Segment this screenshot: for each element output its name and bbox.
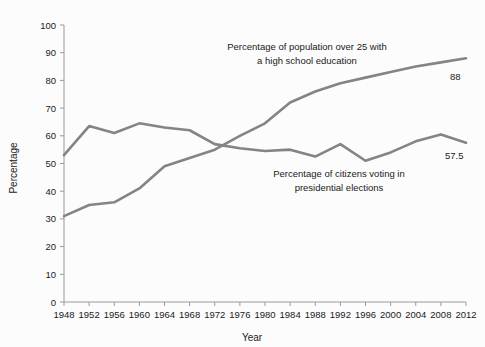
- x-tick-label: 1980: [254, 309, 275, 320]
- x-axis-title: Year: [242, 332, 263, 343]
- x-tick-label: 1984: [280, 309, 301, 320]
- x-tick-label: 2000: [380, 309, 401, 320]
- y-tick-label: 60: [45, 130, 56, 141]
- y-tick-label: 90: [45, 47, 56, 58]
- x-tick-label: 2008: [430, 309, 451, 320]
- x-tick-label: 1952: [79, 309, 100, 320]
- y-axis-ticks: 0102030405060708090100: [40, 20, 64, 308]
- x-tick-label: 1948: [53, 309, 74, 320]
- y-tick-label: 50: [45, 158, 56, 169]
- x-tick-label: 1964: [154, 309, 175, 320]
- y-tick-label: 40: [45, 186, 56, 197]
- education-series-annotation-line2: a high school education: [257, 55, 357, 66]
- y-tick-label: 30: [45, 213, 56, 224]
- x-tick-label: 1996: [355, 309, 376, 320]
- chart-container: 0102030405060708090100 19481952195619601…: [0, 0, 485, 347]
- voting-end-value-label: 57.5: [445, 150, 464, 161]
- education-series-line: [64, 58, 466, 216]
- education-series-annotation-line1: Percentage of population over 25 with: [227, 41, 387, 52]
- y-tick-label: 0: [51, 297, 56, 308]
- line-chart: 0102030405060708090100 19481952195619601…: [0, 0, 485, 347]
- x-tick-label: 1956: [104, 309, 125, 320]
- education-end-value-label: 88: [450, 71, 461, 82]
- voting-series-annotation-line1: Percentage of citizens voting in: [273, 168, 405, 179]
- voting-series-line: [64, 123, 466, 160]
- y-tick-label: 20: [45, 241, 56, 252]
- series-lines: [64, 58, 466, 216]
- voting-series-annotation-line2: presidential elections: [295, 182, 384, 193]
- y-tick-label: 10: [45, 269, 56, 280]
- x-tick-label: 2004: [405, 309, 426, 320]
- x-tick-label: 1976: [229, 309, 250, 320]
- x-tick-label: 1992: [330, 309, 351, 320]
- x-tick-label: 1972: [204, 309, 225, 320]
- x-tick-label: 1988: [305, 309, 326, 320]
- x-axis-ticks: 1948195219561960196419681972197619801984…: [53, 302, 476, 320]
- x-tick-label: 1968: [179, 309, 200, 320]
- x-tick-label: 1960: [129, 309, 150, 320]
- y-tick-label: 80: [45, 75, 56, 86]
- x-tick-label: 2012: [455, 309, 476, 320]
- y-axis-title: Percentage: [8, 142, 19, 194]
- y-tick-label: 70: [45, 103, 56, 114]
- y-tick-label: 100: [40, 20, 56, 31]
